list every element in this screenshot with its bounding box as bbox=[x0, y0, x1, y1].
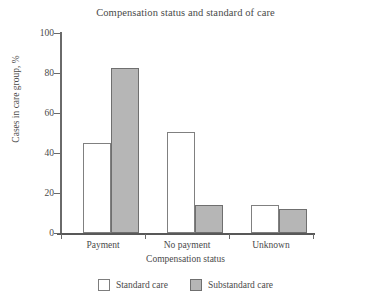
bar-payment-substandard bbox=[111, 68, 139, 233]
plot-area bbox=[61, 33, 313, 233]
y-tick-label-20: 20 bbox=[20, 188, 54, 198]
bar-unknown-standard bbox=[251, 205, 279, 233]
x-tick-left bbox=[61, 234, 62, 239]
y-tick-40 bbox=[54, 153, 60, 154]
category-label-unknown: Unknown bbox=[252, 240, 289, 250]
y-tick-label-80: 80 bbox=[20, 68, 54, 78]
category-label-payment: Payment bbox=[86, 240, 119, 250]
bar-unknown-substandard bbox=[279, 209, 307, 233]
y-tick-label-40: 40 bbox=[20, 148, 54, 158]
x-axis-title: Compensation status bbox=[0, 254, 371, 264]
category-label-no-payment: No payment bbox=[164, 240, 211, 250]
x-tick-2 bbox=[229, 234, 230, 239]
legend-entry-standard-care: Standard care bbox=[98, 279, 168, 291]
y-tick-80 bbox=[54, 73, 60, 74]
y-tick-label-0: 0 bbox=[20, 228, 54, 238]
chart-legend: Standard care Substandard care bbox=[0, 279, 371, 291]
y-axis-title: Cases in care group, % bbox=[11, 19, 21, 179]
y-tick-20 bbox=[54, 193, 60, 194]
y-tick-0 bbox=[54, 233, 60, 234]
legend-entry-substandard-care: Substandard care bbox=[190, 279, 273, 291]
bar-no-payment-standard bbox=[167, 132, 195, 233]
legend-swatch-standard-care bbox=[98, 279, 110, 291]
x-tick-right bbox=[313, 234, 314, 239]
bar-payment-standard bbox=[83, 143, 111, 233]
y-tick-60 bbox=[54, 113, 60, 114]
legend-label-standard-care: Standard care bbox=[116, 280, 168, 290]
bar-no-payment-substandard bbox=[195, 205, 223, 233]
y-tick-label-60: 60 bbox=[20, 108, 54, 118]
x-tick-1 bbox=[145, 234, 146, 239]
y-tick-100 bbox=[54, 33, 60, 34]
legend-swatch-substandard-care bbox=[190, 279, 202, 291]
y-tick-label-100: 100 bbox=[20, 28, 54, 38]
chart-title: Compensation status and standard of care bbox=[0, 7, 371, 18]
chart-figure: Compensation status and standard of care… bbox=[0, 0, 371, 307]
legend-label-substandard-care: Substandard care bbox=[208, 280, 273, 290]
